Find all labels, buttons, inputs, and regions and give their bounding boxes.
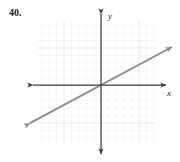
graph-figure: 40.: [0, 0, 180, 162]
x-axis-label: x: [166, 88, 171, 98]
coordinate-plane: y x: [0, 0, 180, 162]
grid-group: [38, 20, 156, 145]
y-axis-label: y: [107, 11, 112, 21]
